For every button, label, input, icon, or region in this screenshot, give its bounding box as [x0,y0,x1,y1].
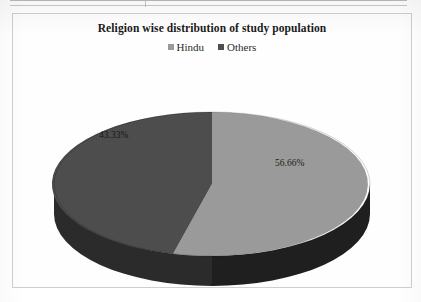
pie-chart-graphic [13,64,411,287]
legend-item-label: Others [227,41,256,53]
legend-item-label: Hindu [177,41,205,53]
table-cell-divider [145,1,146,7]
scanned-table-remnant [10,0,407,6]
chart-frame: Religion wise distribution of study popu… [12,13,412,288]
legend-item-others[interactable]: Others [218,41,256,53]
chart-title: Religion wise distribution of study popu… [13,22,411,34]
chart-legend: Hindu Others [13,41,411,53]
legend-square-icon [218,44,224,50]
legend-item-hindu[interactable]: Hindu [168,41,205,53]
legend-square-icon [168,44,174,50]
pie-data-label-hindu: 56.66% [275,158,304,168]
pie-data-label-others: 43.33% [99,130,128,140]
pie-plot-area: 43.33% 56.66% [13,64,411,287]
